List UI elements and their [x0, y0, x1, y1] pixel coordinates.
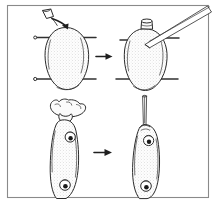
- cup-body: [43, 9, 54, 19]
- transition-arrow-bottom: [94, 149, 112, 156]
- yolk-mass: [50, 99, 85, 117]
- pin-head-lower-left: [34, 77, 37, 80]
- collar-cap: [141, 19, 153, 29]
- eye-spot-lower: [60, 180, 71, 191]
- figure-border: [8, 6, 209, 198]
- collar-rim: [141, 19, 152, 23]
- panel-bottom-left: [50, 99, 85, 198]
- egg-outline: [45, 28, 89, 90]
- panel-top-left: [34, 9, 96, 90]
- eye-upper-pupil: [147, 140, 151, 144]
- dropper-cup: [43, 9, 58, 25]
- pin-head-upper-left: [34, 36, 37, 39]
- injection-pipette: [145, 6, 212, 48]
- figure-root: Four-panel black and white scientific li…: [0, 0, 216, 203]
- figure-canvas: [0, 0, 216, 203]
- eye-lower-pupil: [63, 184, 68, 189]
- pipette-inner-line: [149, 7, 210, 42]
- eye-spot-upper: [144, 135, 154, 145]
- eye-spot-lower: [141, 181, 152, 192]
- eye-lower-pupil: [144, 185, 149, 190]
- transition-arrow-bottom-head: [105, 149, 113, 156]
- eye-spot-upper: [65, 132, 75, 142]
- transition-arrow-top-head: [106, 53, 113, 60]
- capillary-tube: [143, 95, 147, 124]
- eye-upper-pupil: [68, 136, 72, 140]
- pipette-barrel: [145, 6, 212, 48]
- transition-arrow-top: [96, 53, 113, 60]
- panel-top-right: [116, 6, 212, 90]
- panel-bottom-right: [133, 95, 160, 198]
